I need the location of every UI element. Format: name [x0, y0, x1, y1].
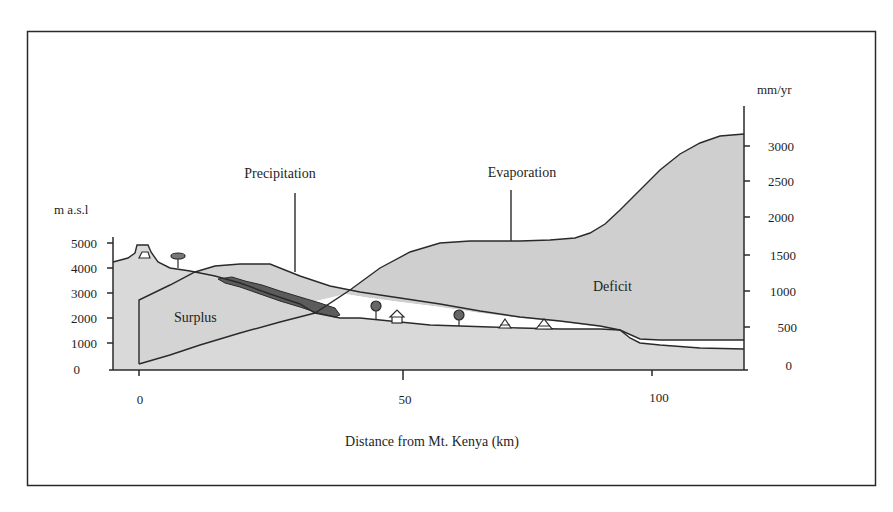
- right-tick-label: 1000: [770, 284, 796, 299]
- left-tick-label: 5000: [71, 236, 97, 251]
- figure: 5000 4000 3000 2000 1000 0 3000 2500 200…: [0, 0, 893, 512]
- precipitation-label: Precipitation: [244, 166, 316, 181]
- deficit-label: Deficit: [593, 279, 632, 294]
- x-tick-label: 0: [137, 392, 144, 407]
- left-tick-label: 4000: [71, 261, 97, 276]
- evaporation-label: Evaporation: [488, 165, 556, 180]
- left-tick-label: 1000: [71, 336, 97, 351]
- left-tick-label: 0: [74, 362, 81, 377]
- left-axis-unit: m a.s.l: [54, 202, 89, 217]
- left-tick-label: 3000: [71, 286, 97, 301]
- right-tick-label: 1500: [770, 248, 796, 263]
- right-tick-label: 500: [778, 320, 798, 335]
- right-axis-unit: mm/yr: [757, 82, 792, 97]
- x-tick-label: 100: [649, 390, 669, 405]
- x-tick-label: 50: [399, 392, 412, 407]
- right-tick-label: 0: [786, 358, 793, 373]
- right-tick-label: 2000: [768, 210, 794, 225]
- left-tick-label: 2000: [71, 311, 97, 326]
- x-axis-title: Distance from Mt. Kenya (km): [345, 434, 519, 450]
- right-tick-label: 2500: [768, 174, 794, 189]
- right-tick-label: 3000: [768, 139, 794, 154]
- surplus-label: Surplus: [174, 310, 217, 325]
